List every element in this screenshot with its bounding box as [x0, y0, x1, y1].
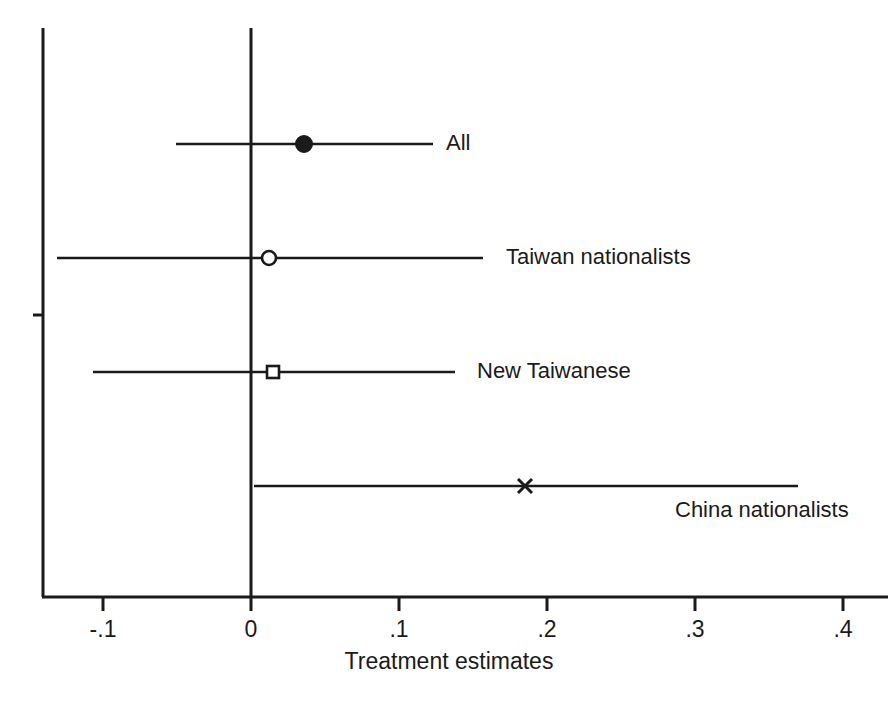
x-tick-label-0-1: .1	[389, 618, 408, 641]
forest-plot-figure: -.1 0 .1 .2 .3 .4 All Taiwan nationalist…	[0, 0, 892, 706]
series-label-taiwan-nationalists: Taiwan nationalists	[506, 246, 691, 268]
x-tick-label-0-3: .3	[685, 618, 704, 641]
estimate-row-taiwan-nationalists	[57, 251, 483, 265]
x-tick-label-0-2: .2	[537, 618, 556, 641]
estimate-row-all	[176, 136, 433, 152]
x-tick-label-0-4: .4	[833, 618, 852, 641]
series-label-china-nationalists: China nationalists	[675, 499, 849, 521]
filled-circle-marker-all	[296, 136, 312, 152]
x-tick-label-0: 0	[245, 618, 258, 641]
x-tick-label-neg-0-1: -.1	[90, 618, 117, 641]
series-label-new-taiwanese: New Taiwanese	[477, 360, 631, 382]
estimate-row-china-nationalists	[254, 479, 798, 493]
x-axis-title: Treatment estimates	[345, 650, 554, 673]
open-square-marker-new-taiwanese	[267, 366, 279, 378]
plot-canvas	[0, 0, 892, 706]
open-circle-marker-taiwan-nationalists	[262, 251, 276, 265]
series-label-all: All	[446, 132, 470, 154]
estimate-row-new-taiwanese	[93, 366, 455, 378]
